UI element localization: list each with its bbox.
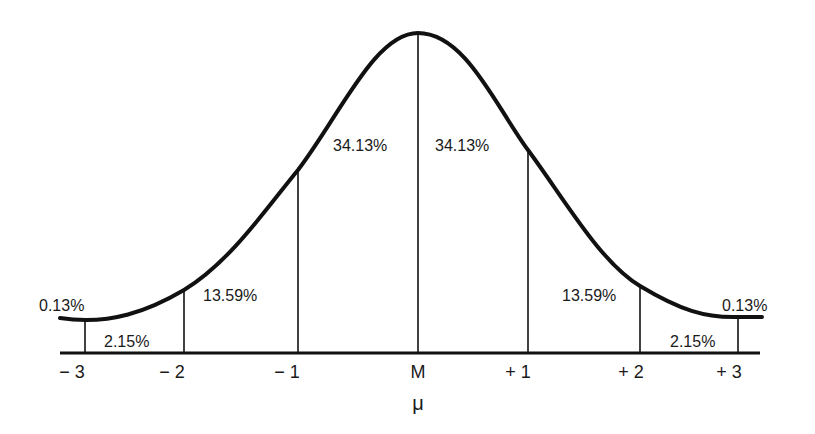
tick-plus-2: + 2: [618, 362, 644, 382]
label-band-p2-p3: 2.15%: [670, 333, 715, 350]
mu-symbol: μ: [412, 392, 424, 414]
tick-plus-3: + 3: [716, 362, 742, 382]
bell-curve: [60, 33, 762, 320]
label-band-p1-p2: 13.59%: [562, 287, 616, 304]
tick-minus-3: − 3: [59, 362, 85, 382]
tick-minus-1: − 1: [274, 362, 300, 382]
tick-minus-2: − 2: [159, 362, 185, 382]
label-tail-left: 0.13%: [39, 297, 84, 314]
tick-plus-1: + 1: [505, 362, 531, 382]
normal-distribution-diagram: 0.13% 2.15% 13.59% 34.13% 34.13% 13.59% …: [0, 0, 815, 434]
tick-mean: M: [411, 362, 426, 382]
label-band-m3-m2: 2.15%: [104, 333, 149, 350]
label-band-m1-m: 34.13%: [333, 137, 387, 154]
label-band-m-p1: 34.13%: [435, 137, 489, 154]
label-tail-right: 0.13%: [722, 297, 767, 314]
label-band-m2-m1: 13.59%: [203, 287, 257, 304]
